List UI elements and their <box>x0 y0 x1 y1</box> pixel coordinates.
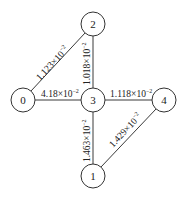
edge-label-4-1: 1.429×10−2 <box>106 111 143 150</box>
edge-label-3-1: 1.463×10−2 <box>81 119 92 162</box>
node-2: 2 <box>81 12 105 36</box>
node-4: 4 <box>152 88 176 112</box>
graph-diagram: 1.123×10−2 1.018×10−2 4.18×10−2 1.118×10… <box>0 0 183 201</box>
edge-label-2-3: 1.018×10−2 <box>81 42 92 85</box>
node-3: 3 <box>81 88 105 112</box>
node-0-label: 0 <box>20 94 26 106</box>
edge-label-0-3: 4.18×10−2 <box>41 88 79 99</box>
node-4-label: 4 <box>161 94 167 106</box>
edge-label-3-4: 1.118×10−2 <box>110 88 152 99</box>
node-3-label: 3 <box>90 94 96 106</box>
node-1: 1 <box>81 164 105 188</box>
edge-4-1 <box>101 109 156 167</box>
node-0: 0 <box>11 88 35 112</box>
node-2-label: 2 <box>90 18 96 30</box>
node-1-label: 1 <box>90 170 96 182</box>
edge-label-0-2: 1.123×10−2 <box>33 44 70 83</box>
